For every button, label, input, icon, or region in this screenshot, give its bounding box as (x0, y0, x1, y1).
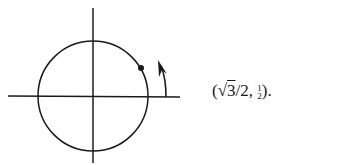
coord-open: (√ (212, 81, 227, 100)
arrowhead-icon (158, 60, 167, 77)
coord-after-sqrt: /2, (236, 81, 258, 100)
unit-circle-diagram (0, 0, 347, 165)
point-marker (138, 65, 144, 71)
coord-radicand: 3 (227, 81, 236, 100)
coord-close: ). (262, 81, 272, 100)
horizontal-axis (8, 96, 180, 97)
coordinate-label: (√3/2, 12). (212, 81, 272, 101)
